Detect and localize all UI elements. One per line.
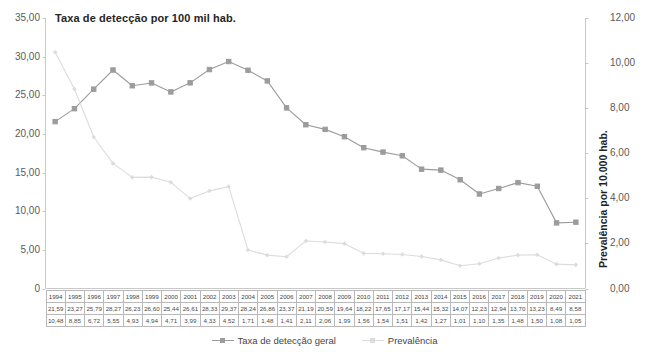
table-cell: 1,27 xyxy=(431,314,450,326)
data-point-marker xyxy=(496,256,501,261)
right-axis-tick-label: 4,00 xyxy=(610,192,629,203)
axes xyxy=(46,18,586,289)
data-point-marker xyxy=(342,135,346,139)
data-point-marker xyxy=(574,263,579,268)
right-axis-tick-label: 10,00 xyxy=(610,57,635,68)
table-cell: 1,99 xyxy=(335,314,354,326)
table-cell: 18,22 xyxy=(354,302,373,314)
table-cell: 29,37 xyxy=(219,302,238,314)
table-cell: 2004 xyxy=(239,290,258,302)
left-axis-tick-label: 25,00 xyxy=(6,89,40,100)
table-cell: 1997 xyxy=(104,290,123,302)
table-cell: 13,70 xyxy=(508,302,527,314)
data-point-marker xyxy=(419,167,423,171)
table-cell: 2001 xyxy=(181,290,200,302)
chart-legend: Taxa de detecção geral Prevalência xyxy=(0,330,649,350)
table-cell: 2013 xyxy=(412,290,431,302)
table-cell: 8,85 xyxy=(65,314,84,326)
data-point-marker xyxy=(149,81,153,85)
data-point-marker xyxy=(227,59,231,63)
table-cell: 1,10 xyxy=(470,314,489,326)
series-deteccao-geral xyxy=(53,59,578,225)
legend-label: Prevalência xyxy=(388,335,438,346)
table-cell: 17,17 xyxy=(393,302,412,314)
table-cell: 26,86 xyxy=(258,302,277,314)
table-cell: 15,44 xyxy=(412,302,431,314)
data-point-marker xyxy=(458,178,462,182)
table-cell: 1,50 xyxy=(527,314,546,326)
data-point-marker xyxy=(535,252,540,257)
series-prevalencia xyxy=(53,50,578,268)
data-point-marker xyxy=(554,221,558,225)
left-axis-tick-label: 35,00 xyxy=(6,12,40,23)
table-cell: 2015 xyxy=(450,290,469,302)
table-cell: 6,72 xyxy=(85,314,104,326)
right-axis-title: Prevalência por 10.000 hab. xyxy=(597,130,609,268)
data-point-marker xyxy=(342,241,347,246)
data-point-marker xyxy=(516,180,520,184)
data-point-marker xyxy=(111,68,115,72)
table-cell: 2020 xyxy=(547,290,566,302)
left-axis-tick-label: 15,00 xyxy=(6,167,40,178)
table-cell: 1996 xyxy=(85,290,104,302)
data-point-marker xyxy=(381,251,386,256)
table-cell: 1999 xyxy=(142,290,161,302)
table-cell: 2,06 xyxy=(316,314,335,326)
table-cell: 2016 xyxy=(470,290,489,302)
table-cell: 4,33 xyxy=(200,314,219,326)
table-cell: 2021 xyxy=(566,290,585,302)
left-axis-tick-label: 10,00 xyxy=(6,205,40,216)
table-cell: 1995 xyxy=(65,290,84,302)
table-cell: 2,11 xyxy=(296,314,315,326)
table-cell: 2007 xyxy=(296,290,315,302)
table-cell: 8,49 xyxy=(547,302,566,314)
data-point-marker xyxy=(477,261,482,266)
legend-item-deteccao[interactable]: Taxa de detecção geral xyxy=(212,335,336,346)
table-cell: 1,48 xyxy=(508,314,527,326)
legend-marker-line-icon xyxy=(362,336,384,345)
data-point-marker xyxy=(188,81,192,85)
data-point-marker xyxy=(574,220,578,224)
left-axis-tick-label: 30,00 xyxy=(6,51,40,62)
table-cell: 23,37 xyxy=(277,302,296,314)
table-cell: 2006 xyxy=(277,290,296,302)
data-point-marker xyxy=(53,50,58,55)
table-cell: 5,55 xyxy=(104,314,123,326)
data-point-marker xyxy=(554,262,559,267)
table-cell: 28,33 xyxy=(200,302,219,314)
table-row: 10,488,856,725,554,934,944,713,994,334,5… xyxy=(46,314,585,326)
data-point-marker xyxy=(246,248,251,253)
data-point-marker xyxy=(323,127,327,131)
data-point-marker xyxy=(535,184,539,188)
data-point-marker xyxy=(400,252,405,257)
table-cell: 21,59 xyxy=(46,302,65,314)
data-point-marker xyxy=(400,154,404,158)
table-cell: 4,94 xyxy=(142,314,161,326)
chart-container: Taxa de detecção por 100 mil hab. 05,001… xyxy=(0,0,649,352)
axis-ticks xyxy=(43,19,589,290)
table-cell: 3,99 xyxy=(181,314,200,326)
table-cell: 1,48 xyxy=(258,314,277,326)
table-cell: 1994 xyxy=(46,290,65,302)
table-cell: 26,23 xyxy=(123,302,142,314)
right-axis-tick-label: 0,00 xyxy=(610,283,629,294)
table-cell: 12,94 xyxy=(489,302,508,314)
data-point-marker xyxy=(381,150,385,154)
data-point-marker xyxy=(265,79,269,83)
table-cell: 2000 xyxy=(162,290,181,302)
data-point-marker xyxy=(53,119,57,123)
data-point-marker xyxy=(130,84,134,88)
table-cell: 21,19 xyxy=(296,302,315,314)
data-point-marker xyxy=(72,87,77,92)
data-point-marker xyxy=(92,87,96,91)
legend-item-prevalencia[interactable]: Prevalência xyxy=(362,335,438,346)
table-cell: 28,27 xyxy=(104,302,123,314)
table-cell: 8,58 xyxy=(566,302,585,314)
data-point-marker xyxy=(323,240,328,245)
data-table: 1994199519961997199819992000200120022003… xyxy=(46,290,586,327)
table-cell: 1,56 xyxy=(354,314,373,326)
table-cell: 17,65 xyxy=(373,302,392,314)
data-point-marker xyxy=(419,254,424,259)
data-point-marker xyxy=(516,253,521,258)
table-cell: 1,08 xyxy=(547,314,566,326)
